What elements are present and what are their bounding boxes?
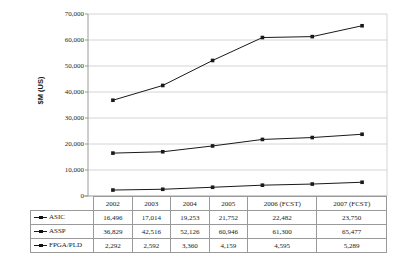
- data-cell: 17,014: [132, 211, 171, 225]
- data-point-marker: [211, 185, 215, 189]
- data-cell: 23,750: [317, 211, 387, 225]
- data-point-marker: [211, 59, 215, 63]
- data-point-marker: [310, 136, 314, 140]
- column-header: 2005: [209, 197, 248, 211]
- data-cell: 36,829: [94, 225, 133, 239]
- series-label: ASSP: [49, 228, 66, 236]
- data-point-marker: [261, 138, 265, 142]
- series-label: ASIC: [49, 214, 65, 222]
- data-cell: 42,516: [132, 225, 171, 239]
- data-cell: 19,253: [171, 211, 210, 225]
- table-header-row: 20022003200420052006 (FCST)2007 (FCST): [31, 197, 387, 211]
- data-point-marker: [161, 187, 165, 191]
- data-cell: 2,292: [94, 239, 133, 253]
- data-point-marker: [310, 35, 314, 39]
- plot-svg: [0, 0, 401, 200]
- data-point-marker: [261, 36, 265, 40]
- data-point-marker: [161, 150, 165, 154]
- data-point-marker: [360, 132, 364, 136]
- data-cell: 3,360: [171, 239, 210, 253]
- legend-marker-icon: [34, 242, 47, 249]
- data-cell: 22,482: [248, 211, 317, 225]
- data-table: 20022003200420052006 (FCST)2007 (FCST)AS…: [30, 196, 387, 253]
- series-line-fpga-pld: [113, 182, 362, 190]
- data-point-marker: [261, 183, 265, 187]
- table-row: FPGA/PLD2,2922,5923,3604,1594,5955,289: [31, 239, 387, 253]
- legend-entry: ASSP: [31, 225, 94, 239]
- data-cell: 5,289: [317, 239, 387, 253]
- column-header: 2007 (FCST): [317, 197, 387, 211]
- data-point-marker: [111, 188, 115, 192]
- data-point-marker: [111, 98, 115, 102]
- column-header: 2006 (FCST): [248, 197, 317, 211]
- table-corner-cell: [31, 197, 94, 211]
- data-cell: 2,592: [132, 239, 171, 253]
- chart-figure: $M (US) 70,00060,00050,00040,00030,00020…: [0, 0, 401, 278]
- legend-marker-icon: [34, 228, 47, 235]
- legend-marker-icon: [34, 214, 47, 221]
- column-header: 2002: [94, 197, 133, 211]
- series-line-assp: [113, 26, 362, 100]
- data-point-marker: [211, 144, 215, 148]
- data-point-marker: [360, 180, 364, 184]
- table-row: ASSP36,82942,51652,12660,94661,30065,477: [31, 225, 387, 239]
- data-cell: 61,300: [248, 225, 317, 239]
- legend-entry: FPGA/PLD: [31, 239, 94, 253]
- data-point-marker: [111, 151, 115, 155]
- column-header: 2004: [171, 197, 210, 211]
- series-label: FPGA/PLD: [49, 242, 82, 250]
- column-header: 2003: [132, 197, 171, 211]
- data-cell: 4,595: [248, 239, 317, 253]
- data-cell: 21,752: [209, 211, 248, 225]
- legend-entry: ASIC: [31, 211, 94, 225]
- data-point-marker: [310, 182, 314, 186]
- data-cell: 16,496: [94, 211, 133, 225]
- data-point-marker: [360, 24, 364, 28]
- plot-area: [0, 0, 401, 200]
- data-cell: 4,159: [209, 239, 248, 253]
- data-cell: 52,126: [171, 225, 210, 239]
- table-row: ASIC16,49617,01419,25321,75222,48223,750: [31, 211, 387, 225]
- data-cell: 60,946: [209, 225, 248, 239]
- data-cell: 65,477: [317, 225, 387, 239]
- data-point-marker: [161, 84, 165, 88]
